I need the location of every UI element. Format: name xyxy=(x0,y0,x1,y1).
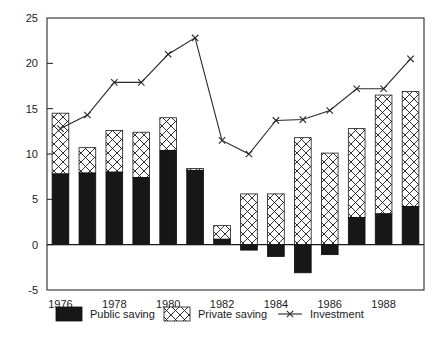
bar-public-saving xyxy=(375,214,392,245)
bar-private-saving xyxy=(321,153,338,245)
y-tick-label: 20 xyxy=(26,57,38,69)
legend-label-public-saving: Public saving xyxy=(90,308,155,320)
x-tick-label: 1988 xyxy=(371,298,395,310)
bar-public-saving xyxy=(52,174,69,245)
bar-public-saving xyxy=(106,172,123,245)
y-tick-label: 10 xyxy=(26,148,38,160)
bar-public-saving xyxy=(241,245,258,250)
investment-marker-x xyxy=(165,51,171,57)
investment-marker-x xyxy=(407,56,413,62)
bar-public-saving xyxy=(79,173,96,245)
y-tick-label: 15 xyxy=(26,103,38,115)
legend-swatch-private-saving xyxy=(164,307,190,321)
bar-private-saving xyxy=(241,194,258,245)
bar-public-saving xyxy=(268,245,285,257)
bar-public-saving xyxy=(402,207,419,245)
bar-public-saving xyxy=(187,170,204,244)
bar-private-saving xyxy=(375,95,392,214)
bar-private-saving xyxy=(348,129,365,218)
investment-marker-x xyxy=(246,151,252,157)
investment-marker-x xyxy=(219,137,225,143)
y-axis-ticks: -50510152025 xyxy=(26,12,53,296)
plot-frame xyxy=(47,18,424,290)
legend-label-investment: Investment xyxy=(310,308,364,320)
bar-public-saving xyxy=(348,217,365,244)
legend-label-private-saving: Private saving xyxy=(198,308,267,320)
bar-private-saving xyxy=(402,91,419,206)
bar-private-saving xyxy=(79,148,96,173)
bar-public-saving xyxy=(321,245,338,255)
investment-marker-x xyxy=(84,112,90,118)
legend-swatch-public-saving xyxy=(56,307,82,321)
bar-public-saving xyxy=(160,150,177,244)
bar-public-saving xyxy=(294,245,311,273)
bar-private-saving xyxy=(268,194,285,245)
y-tick-label: 5 xyxy=(32,193,38,205)
y-tick-label: 25 xyxy=(26,12,38,24)
y-tick-label: -5 xyxy=(28,284,38,296)
bar-private-saving xyxy=(214,226,231,240)
y-tick-label: 0 xyxy=(32,239,38,251)
chart-figure: -50510152025 197619781980198219841986198… xyxy=(0,0,436,346)
chart-canvas: -50510152025 197619781980198219841986198… xyxy=(0,0,436,346)
chart-legend: Public savingPrivate savingInvestment xyxy=(56,307,364,321)
x-tick-label: 1984 xyxy=(264,298,288,310)
chart-svg: -50510152025 197619781980198219841986198… xyxy=(0,0,436,346)
bar-public-saving xyxy=(133,178,150,245)
bar-private-saving xyxy=(52,113,69,174)
bar-private-saving xyxy=(294,138,311,245)
bar-private-saving xyxy=(133,132,150,177)
bar-public-saving xyxy=(214,239,231,244)
bar-private-saving xyxy=(160,118,177,151)
bar-private-saving xyxy=(106,130,123,172)
investment-marker-x xyxy=(192,35,198,41)
bar-series-group xyxy=(52,91,419,272)
investment-marker-x xyxy=(327,107,333,113)
